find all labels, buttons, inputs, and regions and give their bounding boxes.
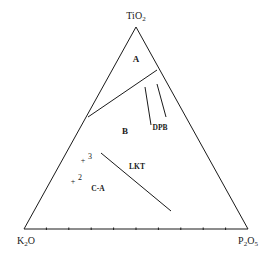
dpb-line-1 [145, 87, 151, 125]
field-label-lkt: LKT [129, 162, 145, 171]
point-label: 2 [78, 173, 82, 182]
plus-marker-icon: + [81, 156, 86, 165]
plus-marker-icon: + [71, 177, 76, 186]
point-label: 3 [88, 152, 92, 161]
field-label-a: A [133, 54, 140, 64]
vertex-label-tio2: TiO2 [126, 10, 146, 23]
ternary-diagram: TiO2 K2O P2O5 A B DPB LKT C-A + 3 + 2 [0, 0, 272, 258]
field-label-c-a: C-A [91, 184, 105, 193]
sample-point-3: + 3 [81, 152, 92, 165]
vertex-label-k2o: K2O [17, 235, 35, 248]
dpb-line-2 [157, 84, 166, 117]
field-label-b: B [122, 126, 128, 136]
vertex-label-p2o5: P2O5 [238, 235, 258, 248]
field-a-boundary-line [88, 70, 157, 117]
sample-point-2: + 2 [71, 173, 82, 186]
field-label-dpb: DPB [153, 123, 168, 132]
